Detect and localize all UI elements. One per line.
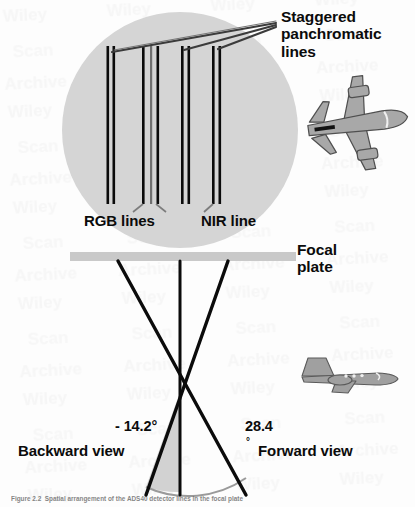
aircraft-engine-side [328,375,352,385]
label-backward-view-angle: - 14.2° [115,418,157,434]
detector-line-pan-1 [107,46,110,204]
aircraft-side-view [302,358,398,393]
focal-plate-bar [70,252,296,261]
ray-backward [118,261,246,495]
detector-line-rgb-green [150,46,152,204]
ray-forward [146,261,228,495]
label-focal-plate: Focal plate [297,241,337,276]
ray-bundle [118,261,246,495]
label-rgb-lines: RGB lines [84,213,155,230]
aircraft-engine-upper [348,85,370,98]
detector-line-pan-2 [113,46,116,204]
label-staggered-panchromatic-lines: Staggered panchromatic lines [281,8,381,60]
aircraft-plan-view [302,70,414,177]
label-forward-view: Forward view [258,443,353,460]
detector-line-nir-2 [219,46,222,204]
figure-caption: Figure 2.2 Spatial arrangement of the AD… [11,495,243,502]
figure-container: Wiley Scan Archive [0,0,415,507]
detector-line-rgb-blue [157,46,160,204]
detector-line-rgb-red [142,46,145,204]
aircraft-tailplane-lower [311,133,336,156]
detector-line-nir-1 [212,46,215,204]
optical-system-diagram [0,0,415,507]
detector-line-pan-4 [188,46,191,204]
label-forward-view-angle: 28.4 [245,418,273,434]
aircraft-tailplane-upper [307,101,332,124]
detector-line-pan-3 [181,46,184,204]
label-backward-view: Backward view [18,443,124,460]
aircraft-tail-fin [302,358,334,376]
label-forward-view-angle-degree-symbol: ° [246,436,250,447]
aircraft-engine-lower [357,148,379,161]
label-nir-line: NIR line [201,213,256,230]
